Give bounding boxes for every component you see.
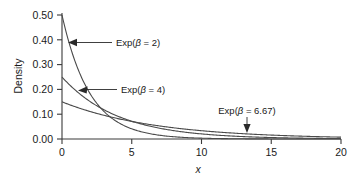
annot-1-prefix: Exp( — [121, 84, 141, 95]
x-tick-label-0: 0 — [59, 146, 65, 158]
x-tick-label-1: 5 — [129, 146, 135, 158]
y-tick-label-3: 0.30 — [33, 58, 54, 70]
chart-svg: 0.00 0.10 0.20 0.30 0.40 0.50 0 5 10 15 … — [0, 0, 354, 179]
x-tick-label-4: 20 — [335, 146, 347, 158]
y-tick-label-4: 0.40 — [33, 34, 54, 46]
y-axis-title: Density — [12, 58, 24, 94]
annot-2-prefix: Exp( — [218, 105, 238, 116]
density-chart-figure: 0.00 0.10 0.20 0.30 0.40 0.50 0 5 10 15 … — [0, 0, 354, 179]
annotation-beta-2-label: Exp(β = 2) — [116, 37, 160, 48]
x-tick-label-2: 10 — [196, 146, 208, 158]
annot-0-prefix: Exp( — [116, 37, 136, 48]
annotation-beta-667-label: Exp(β = 6.67) — [218, 105, 275, 116]
annotation-beta-4-label: Exp(β = 4) — [121, 84, 165, 95]
y-tick-label-0: 0.00 — [33, 133, 54, 145]
annot-0-suffix: = 2) — [141, 37, 160, 48]
y-tick-label-5: 0.50 — [33, 9, 54, 21]
annot-1-suffix: = 4) — [146, 84, 165, 95]
y-tick-label-1: 0.10 — [33, 108, 54, 120]
x-tick-label-3: 15 — [265, 146, 277, 158]
x-axis-title: x — [194, 163, 201, 175]
chart-background — [0, 0, 354, 179]
y-tick-label-2: 0.20 — [33, 83, 54, 95]
annot-2-suffix: = 6.67) — [243, 105, 275, 116]
